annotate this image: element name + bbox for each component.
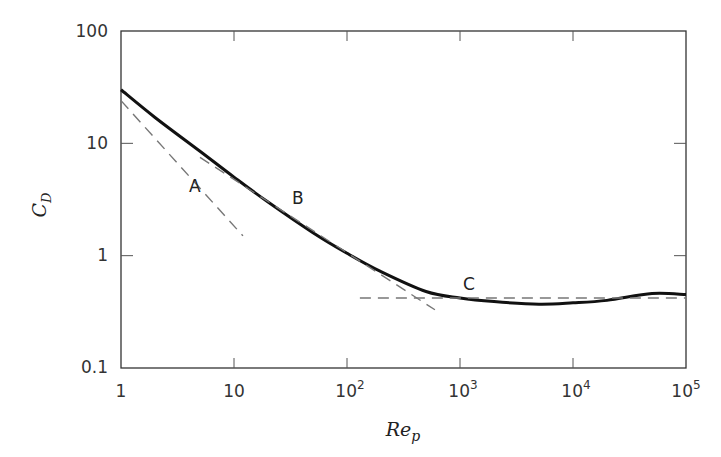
annotation-b: B [292, 188, 304, 208]
y-axis-label: CD [28, 192, 54, 218]
annotation-c: C [463, 274, 475, 294]
plot-frame [121, 31, 686, 368]
x-tick-label: 10 [223, 381, 245, 401]
axis-ticks [121, 31, 686, 368]
x-tick-label: 105 [671, 378, 700, 401]
x-tick-label: 102 [335, 378, 364, 401]
y-tick-label: 0.1 [81, 357, 108, 377]
y-tick-label: 100 [76, 21, 108, 41]
y-tick-label: 1 [97, 245, 108, 265]
x-tick-label: 103 [448, 378, 477, 401]
asymptote-line-b [200, 157, 435, 309]
x-tick-label: 104 [561, 378, 590, 401]
x-tick-label: 1 [116, 381, 127, 401]
y-tick-label: 10 [86, 133, 108, 153]
x-axis-label: Rep [385, 418, 421, 444]
annotation-a: A [189, 176, 201, 196]
series-group [121, 90, 686, 310]
drag-coefficient-curve [121, 90, 686, 304]
chart-svg: 100 10 1 0.1 1 10 102 103 104 105 Rep CD… [0, 0, 721, 457]
